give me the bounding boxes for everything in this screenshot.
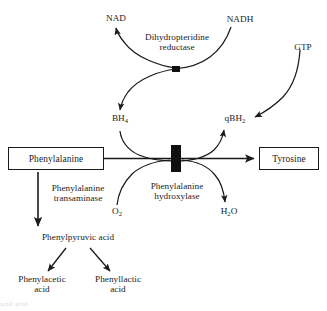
node-phenyllactic-acid-line1: Phenyllactic — [95, 274, 141, 284]
node-tyrosine-label: Tyrosine — [272, 154, 305, 164]
node-bh4-subscript: 4 — [125, 117, 128, 124]
lower-enzyme-bar — [171, 145, 181, 172]
node-h2o: H2O — [221, 206, 238, 216]
node-phenyllactic-acid: Phenyllactic acid — [95, 274, 141, 295]
edge-bh4-to-qbh2-right — [176, 130, 224, 161]
edge-phenylpyruvic-to-phenyllactic — [90, 248, 110, 271]
node-gtp: GTP — [294, 42, 312, 52]
node-nad-label: NAD — [106, 13, 126, 23]
node-gtp-label: GTP — [294, 42, 312, 52]
node-phenylpyruvic-acid-label: Phenylpyruvic acid — [42, 232, 114, 242]
node-phenylacetic-acid-line1: Phenylacetic — [18, 274, 66, 284]
upper-enzyme-bar — [172, 66, 180, 72]
label-phenylalanine-transaminase-line2: transaminase — [54, 193, 103, 203]
node-h2o-subscript: 2 — [227, 210, 230, 217]
node-o2-subscript: 2 — [119, 210, 122, 217]
label-dihydropteridine-reductase-line2: reductase — [159, 42, 194, 52]
node-bh4-label: BH — [112, 113, 125, 123]
node-bh4: BH4 — [112, 113, 128, 123]
node-h2o-label: H — [221, 206, 228, 216]
node-tyrosine[interactable]: Tyrosine — [259, 147, 319, 170]
node-phenylalanine[interactable]: Phenylalanine — [8, 147, 104, 170]
edge-bh4-to-qbh2-left — [120, 131, 176, 161]
node-h2o-label-tail: O — [231, 206, 238, 216]
edge-phenylpyruvic-to-phenylacetic — [48, 248, 66, 271]
node-o2-label: O — [112, 206, 119, 216]
node-phenylpyruvic-acid: Phenylpyruvic acid — [42, 232, 114, 242]
node-nad: NAD — [106, 13, 126, 23]
label-phenylalanine-hydroxylase-line2: hydroxylase — [154, 191, 199, 201]
label-phenylalanine-hydroxylase-line1: Phenylalanine — [151, 181, 204, 191]
node-phenylacetic-acid-line2: acid — [34, 284, 50, 294]
clipped-caption-artifact: acid acid — [0, 300, 327, 311]
label-phenylalanine-transaminase: Phenylalanine transaminase — [52, 183, 105, 204]
clipped-caption-text: acid acid — [0, 300, 28, 308]
node-phenyllactic-acid-line2: acid — [110, 284, 126, 294]
node-phenylalanine-label: Phenylalanine — [29, 154, 83, 164]
label-phenylalanine-hydroxylase: Phenylalanine hydroxylase — [151, 181, 204, 202]
edge-gtp-to-qbh2 — [255, 50, 300, 117]
label-dihydropteridine-reductase-line1: Dihydropteridine — [145, 32, 209, 42]
node-qbh2-subscript: 2 — [242, 117, 245, 124]
node-qbh2-label: qBH — [225, 113, 243, 123]
node-qbh2: qBH2 — [225, 113, 246, 123]
node-nadh: NADH — [227, 14, 254, 24]
node-nadh-label: NADH — [227, 14, 254, 24]
node-o2: O2 — [112, 206, 122, 216]
node-phenylacetic-acid: Phenylacetic acid — [18, 274, 66, 295]
label-dihydropteridine-reductase: Dihydropteridine reductase — [145, 32, 209, 53]
pathway-diagram: Phenylalanine Tyrosine NAD NADH GTP BH4 … — [0, 0, 327, 311]
label-phenylalanine-transaminase-line1: Phenylalanine — [52, 183, 105, 193]
edge-cycle-to-bh4 — [120, 69, 176, 110]
